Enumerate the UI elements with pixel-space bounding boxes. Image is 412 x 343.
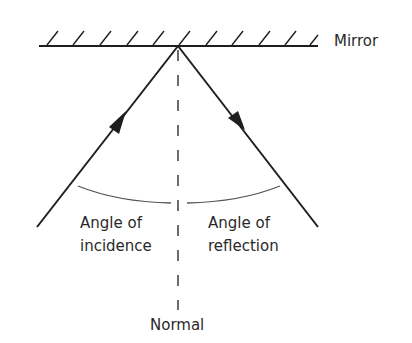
reflected-ray	[178, 46, 318, 227]
reflection-label-line1: Angle of	[208, 214, 271, 232]
incidence-label-line1: Angle of	[80, 214, 143, 232]
incidence-label-line2: incidence	[80, 237, 152, 255]
mirror-label: Mirror	[334, 32, 379, 50]
incident-ray	[37, 46, 178, 227]
reflection-diagram: Mirror Angle of incidence Angle of refle…	[0, 0, 412, 343]
reflection-label-line2: reflection	[208, 237, 279, 255]
mirror	[39, 31, 318, 46]
normal-label: Normal	[150, 316, 204, 334]
incidence-angle-arc	[78, 186, 171, 203]
mirror-hatching	[47, 31, 318, 45]
reflection-angle-arc	[187, 186, 280, 203]
